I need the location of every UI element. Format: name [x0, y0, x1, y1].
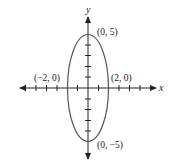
point-label-bottom: (0, −5) — [97, 140, 123, 151]
ellipse-diagram: y x (0, 5) (−2, 0) (2, 0) (0, −5) — [0, 0, 174, 166]
x-axis-label: x — [158, 82, 164, 93]
point-label-left: (−2, 0) — [34, 73, 60, 84]
y-axis-label: y — [85, 4, 91, 15]
point-label-top: (0, 5) — [97, 27, 118, 38]
point-label-right: (2, 0) — [111, 73, 132, 84]
